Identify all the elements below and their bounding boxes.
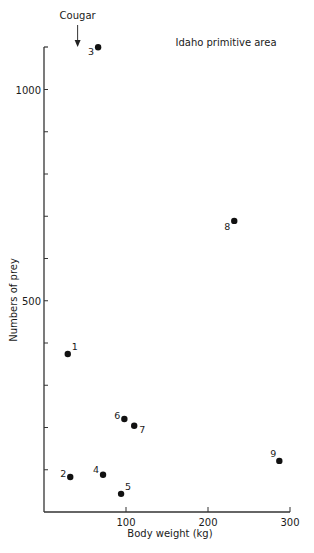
data-point-9 <box>276 458 282 464</box>
data-point-4 <box>100 472 106 478</box>
data-point-6 <box>121 416 127 422</box>
data-point-label: 9 <box>270 448 276 459</box>
chart-title: Idaho primitive area <box>175 37 276 48</box>
data-point-label: 5 <box>125 481 131 492</box>
data-point-label: 6 <box>114 410 120 421</box>
x-tick-label: 300 <box>280 517 299 528</box>
scatter-chart: 5001000100200300Body weight (kg)Numbers … <box>0 0 314 553</box>
x-tick-label: 100 <box>116 517 135 528</box>
data-point-7 <box>131 423 137 429</box>
data-point-label: 3 <box>88 46 94 57</box>
data-point-label: 2 <box>60 468 66 479</box>
arrow-down-icon <box>75 40 81 47</box>
data-point-8 <box>231 218 237 224</box>
data-point-label: 8 <box>224 221 230 232</box>
data-point-label: 4 <box>93 464 99 475</box>
data-point-1 <box>65 351 71 357</box>
y-tick-label: 1000 <box>16 85 41 96</box>
data-point-label: 7 <box>139 424 145 435</box>
x-tick-label: 200 <box>198 517 217 528</box>
data-point-label: 1 <box>72 341 78 352</box>
data-point-2 <box>67 474 73 480</box>
data-point-3 <box>95 44 101 50</box>
y-tick-label: 500 <box>22 296 41 307</box>
data-point-5 <box>118 491 124 497</box>
y-axis-label: Numbers of prey <box>8 258 19 342</box>
x-axis-label: Body weight (kg) <box>127 528 212 539</box>
cougar-annotation-label: Cougar <box>60 10 97 21</box>
